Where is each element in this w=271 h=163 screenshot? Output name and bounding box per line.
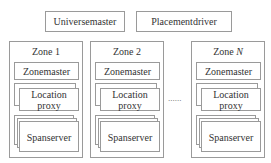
location-proxy-label: Location proxy	[202, 89, 260, 111]
zone-title: Zone 1	[10, 46, 82, 57]
zone-title: Zone 2	[91, 46, 163, 57]
location-proxy-box: Location proxy	[19, 88, 79, 111]
location-proxy-box: Location proxy	[100, 88, 160, 111]
zonemaster-label: Zonemaster	[96, 66, 159, 77]
placementdriver-box: Placementdriver	[136, 11, 232, 32]
zone-1: Zone 1 Zonemaster Location proxy Spanser…	[9, 41, 83, 158]
placementdriver-label: Placementdriver	[137, 16, 231, 27]
zone-2: Zone 2 Zonemaster Location proxy Spanser…	[90, 41, 164, 158]
zone-title-var: N	[236, 46, 243, 57]
zonemaster-box: Zonemaster	[14, 62, 79, 80]
zonemaster-label: Zonemaster	[197, 66, 260, 77]
location-proxy-box: Location proxy	[201, 88, 261, 111]
spanserver-label: Spanserver	[101, 132, 159, 143]
universemaster-label: Universemaster	[46, 16, 124, 27]
zonemaster-box: Zonemaster	[196, 62, 261, 80]
spanserver-box: Spanserver	[19, 121, 79, 152]
ellipsis: ......	[168, 93, 182, 103]
universemaster-box: Universemaster	[45, 11, 125, 32]
zone-n: Zone N Zonemaster Location proxy Spanser…	[191, 41, 265, 158]
spanserver-label: Spanserver	[20, 132, 78, 143]
spanserver-box: Spanserver	[201, 121, 261, 152]
zonemaster-box: Zonemaster	[95, 62, 160, 80]
zone-title-prefix: Zone	[213, 46, 236, 57]
location-proxy-label: Location proxy	[101, 89, 159, 111]
zonemaster-label: Zonemaster	[15, 66, 78, 77]
spanserver-label: Spanserver	[202, 132, 260, 143]
location-proxy-label: Location proxy	[20, 89, 78, 111]
zone-title: Zone N	[192, 46, 264, 57]
spanserver-box: Spanserver	[100, 121, 160, 152]
